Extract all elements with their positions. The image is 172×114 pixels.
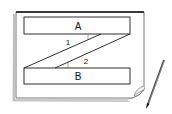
angle-2-label: 2 [84,57,89,66]
rect-a-label: A [75,21,82,32]
rect-b-label: B [75,71,82,82]
geometry-diagram: A B 1 2 [0,0,172,114]
angle-1-label: 1 [66,38,71,47]
pencil-icon [146,60,165,109]
